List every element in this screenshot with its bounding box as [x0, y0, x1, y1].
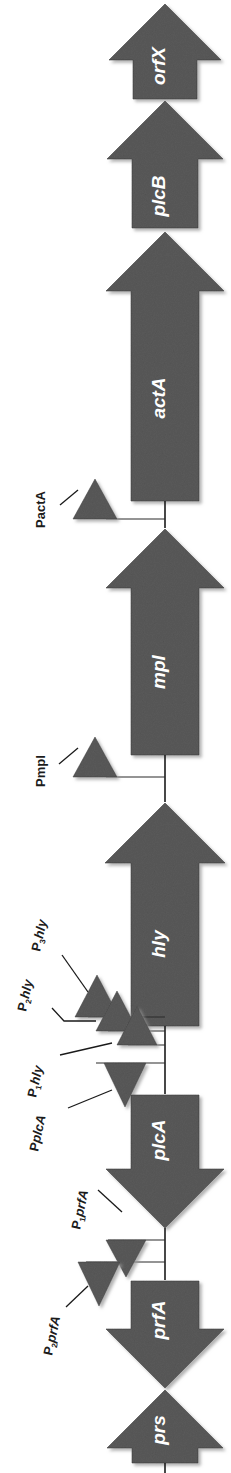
promoter-label-Pmpl: Pmpl	[33, 755, 48, 787]
gene-label-plcB: plcB	[148, 175, 169, 217]
gene-label-hly: hly	[148, 929, 169, 958]
gene-label-orfX: orfX	[148, 46, 169, 85]
gene-label-prs: prs	[148, 1415, 169, 1446]
gene-label-prfA: prfA	[148, 1300, 169, 1340]
diagram-canvas: orfX plcB actA PactA mpl Pmpl hly	[0, 0, 231, 1473]
promoter-label-PactA: PactA	[33, 491, 48, 528]
gene-label-actA: actA	[148, 377, 169, 418]
gene-label-mpl: mpl	[148, 654, 169, 689]
gene-label-plcA: plcA	[148, 1119, 169, 1161]
gene-cluster-diagram: orfX plcB actA PactA mpl Pmpl hly	[0, 0, 231, 1473]
